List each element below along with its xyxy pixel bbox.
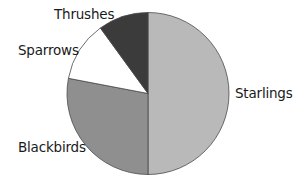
label-starlings: Starlings — [235, 87, 293, 101]
label-blackbirds: Blackbirds — [18, 141, 86, 155]
slice-starlings — [148, 13, 229, 175]
pie-slices — [67, 12, 229, 174]
slice-blackbirds — [67, 78, 148, 174]
label-thrushes: Thrushes — [54, 8, 114, 22]
label-sparrows: Sparrows — [18, 44, 79, 58]
